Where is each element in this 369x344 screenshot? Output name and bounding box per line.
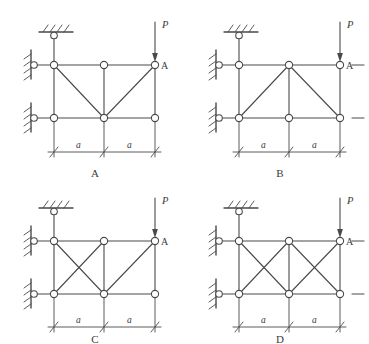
load-label-b: P (346, 19, 354, 30)
wall-pin-lower-d (216, 291, 223, 298)
dim-label-right-c: a (127, 315, 132, 325)
edge-stubs-d (352, 241, 364, 294)
load-arrow-head-a (152, 53, 158, 62)
wall-hatching-lower-a (24, 107, 31, 133)
wall-hatching-upper-d (209, 230, 216, 256)
diagonal-right-b (289, 65, 340, 118)
load-arrow-head-d (337, 229, 343, 238)
ceiling-hatching-a (43, 25, 69, 32)
wall-pin-upper-b (216, 62, 223, 69)
load-label-c: P (161, 195, 169, 206)
wall-hatching-upper-c (24, 230, 31, 256)
figure-sheet: P A a a A (0, 0, 369, 344)
wall-pin-lower-b (216, 115, 223, 122)
dim-label-right-d: a (312, 315, 317, 325)
dim-label-left-d: a (261, 315, 266, 325)
wall-hatching-lower-c (24, 283, 31, 309)
wall-hatching-upper-b (209, 54, 216, 80)
joint-label-c: A (161, 236, 169, 247)
wall-pin-upper-d (216, 238, 223, 245)
dim-label-left-b: a (261, 140, 266, 150)
truss-members-a (54, 65, 155, 118)
ceiling-hatching-b (228, 25, 254, 32)
load-label-a: P (161, 19, 169, 30)
edge-stubs-b (352, 65, 364, 118)
truss-members-c (54, 241, 155, 294)
diagonal-right-a (104, 65, 155, 118)
joint-label-b: A (346, 60, 354, 71)
wall-pin-lower-a (31, 115, 38, 122)
wall-pin-upper-a (31, 62, 38, 69)
ceiling-hatching-c (43, 201, 69, 208)
load-arrow-head-c (152, 229, 158, 238)
wall-pin-upper-c (31, 238, 38, 245)
diagonal-left-b (239, 65, 289, 118)
dim-label-right-a: a (127, 140, 132, 150)
diagonal-right-c (104, 241, 155, 294)
wall-hatching-upper-a (24, 54, 31, 80)
dimension-line-a (48, 122, 161, 157)
ceiling-hatching-d (228, 201, 254, 208)
ceiling-pin-a (51, 32, 58, 39)
dimension-line-b (233, 122, 346, 157)
dim-label-left-c: a (76, 315, 81, 325)
wall-hatching-lower-b (209, 107, 216, 133)
truss-members-d (239, 241, 340, 294)
dimension-line-d (233, 298, 346, 332)
truss-diagram-d: P A a a (185, 180, 369, 344)
truss-diagram-c: P A a a (0, 180, 185, 344)
ceiling-pin-d (236, 208, 243, 215)
truss-diagram-a: P A a a (0, 0, 185, 165)
wall-hatching-lower-d (209, 283, 216, 309)
ceiling-pin-b (236, 32, 243, 39)
diagonal-left-a (54, 65, 104, 118)
load-arrow-head-b (337, 53, 343, 62)
caption-a: A (75, 167, 115, 179)
ceiling-pin-c (51, 208, 58, 215)
truss-members-b (239, 65, 340, 118)
dimension-line-c (48, 298, 161, 332)
caption-b: B (260, 167, 300, 179)
load-label-d: P (346, 195, 354, 206)
dim-label-right-b: a (312, 140, 317, 150)
caption-d: D (260, 333, 300, 344)
truss-diagram-b: P A a a (185, 0, 369, 165)
wall-pin-lower-c (31, 291, 38, 298)
joint-label-a: A (161, 60, 169, 71)
dim-label-left-a: a (76, 140, 81, 150)
joint-label-d: A (346, 236, 354, 247)
caption-c: C (75, 333, 115, 344)
